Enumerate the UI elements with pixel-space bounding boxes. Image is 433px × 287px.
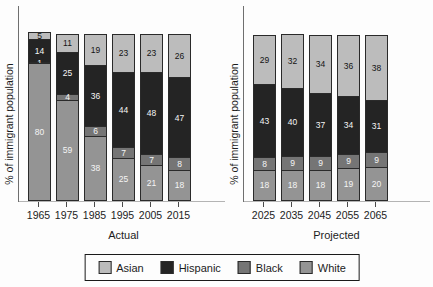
x-tick-label-2005: 2005 (139, 209, 162, 221)
bar-segment-asian: 23 (112, 34, 135, 74)
bars-projected: 29438183240918343791836349193831920 (253, 35, 388, 201)
bar-segment-white: 80 (28, 63, 51, 201)
stacked-bar-chart-figure: % of immigrant population 51418011254591… (0, 0, 433, 287)
bar-segment-hispanic: 31 (365, 100, 388, 153)
legend-label-asian: Asian (116, 262, 144, 274)
x-axis-ticks (18, 202, 225, 207)
plot-column: 29438183240918343791836349193831920 2025… (243, 6, 430, 241)
x-axis-ticks (243, 202, 430, 207)
bar-1985: 1936638 (84, 35, 107, 201)
bar-segment-asian: 26 (168, 34, 191, 79)
axis-tick (347, 202, 349, 207)
bar-segment-black: 8 (253, 157, 276, 171)
bar-segment-asian: 32 (281, 34, 304, 89)
y-axis-label-text: % of immigrant population (3, 63, 15, 184)
segment-value-label: 31 (372, 122, 381, 131)
bar-segment-hispanic: 25 (56, 52, 79, 95)
segment-value-label: 29 (260, 56, 269, 65)
axis-tick (66, 202, 68, 207)
bars-actual: 5141801125459193663823447252348721264781… (28, 33, 191, 201)
segment-value-label: 32 (288, 57, 297, 66)
legend-item-hispanic: Hispanic (161, 261, 221, 274)
segment-value-label: 36 (344, 62, 353, 71)
plot-area-actual: 5141801125459193663823447252348721264781… (18, 6, 225, 202)
bar-segment-white: 59 (56, 100, 79, 201)
segment-value-label: 38 (91, 164, 100, 173)
segment-value-label: 18 (316, 181, 325, 190)
bar-segment-white: 18 (281, 170, 304, 201)
asian-swatch-icon (98, 261, 111, 274)
segment-value-label: 43 (260, 117, 269, 126)
segment-value-label: 48 (147, 109, 156, 118)
x-tick-label-2045: 2045 (308, 209, 331, 221)
segment-value-label: 44 (119, 106, 128, 115)
axis-tick (94, 202, 96, 207)
bar-2005: 2348721 (140, 35, 163, 201)
bar-2035: 3240918 (281, 35, 304, 201)
x-tick-label-2015: 2015 (167, 209, 190, 221)
segment-value-label: 9 (318, 159, 323, 168)
bar-segment-hispanic: 47 (168, 77, 191, 158)
bar-1995: 2344725 (112, 35, 135, 201)
bar-segment-white: 25 (112, 158, 135, 201)
bar-segment-asian: 23 (140, 34, 163, 74)
segment-value-label: 34 (344, 121, 353, 130)
panel-actual: % of immigrant population 51418011254591… (0, 6, 225, 241)
bar-segment-black: 9 (309, 156, 332, 171)
segment-value-label: 23 (147, 49, 156, 58)
black-swatch-icon (238, 261, 251, 274)
axis-tick (291, 202, 293, 207)
panel-caption-actual: Actual (18, 229, 225, 241)
bar-segment-asian: 34 (309, 35, 332, 93)
x-tick-label-2065: 2065 (364, 209, 387, 221)
bar-2065: 3831920 (365, 36, 388, 201)
axis-tick (375, 202, 377, 207)
legend-item-asian: Asian (98, 261, 144, 274)
bar-segment-black: 8 (168, 157, 191, 171)
segment-value-label: 8 (262, 160, 267, 169)
bar-segment-asian: 38 (365, 35, 388, 100)
axis-tick (150, 202, 152, 207)
bar-2025: 2943818 (253, 36, 276, 201)
y-axis-label: % of immigrant population (0, 6, 18, 241)
segment-value-label: 9 (290, 159, 295, 168)
segment-value-label: 18 (175, 181, 184, 190)
bar-segment-white: 19 (337, 168, 360, 201)
x-tick-label-2055: 2055 (336, 209, 359, 221)
segment-value-label: 36 (91, 92, 100, 101)
bar-segment-black: 9 (365, 152, 388, 167)
segment-value-label: 23 (119, 49, 128, 58)
bar-segment-white: 20 (365, 167, 388, 201)
tick-slot (55, 202, 78, 207)
bar-2045: 3437918 (309, 36, 332, 201)
tick-slot (252, 202, 275, 207)
tick-slot (111, 202, 134, 207)
segment-value-label: 25 (119, 175, 128, 184)
segment-value-label: 80 (35, 128, 44, 137)
axis-tick (38, 202, 40, 207)
bar-segment-white: 18 (253, 170, 276, 201)
axis-tick (263, 202, 265, 207)
tick-slot (280, 202, 303, 207)
hispanic-swatch-icon (161, 261, 174, 274)
x-axis-labels: 20252035204520552065 (243, 209, 430, 221)
bar-2055: 3634919 (337, 36, 360, 201)
bar-segment-white: 38 (84, 136, 107, 201)
segment-value-label: 25 (63, 69, 72, 78)
tick-slot (27, 202, 50, 207)
bar-segment-asian: 29 (253, 35, 276, 85)
bar-1975: 1125459 (56, 35, 79, 201)
x-tick-label-1985: 1985 (83, 209, 106, 221)
segment-value-label: 9 (374, 156, 379, 165)
legend-label-white: White (318, 262, 346, 274)
x-axis-labels: 196519751985199520052015 (18, 209, 225, 221)
x-tick-label-2035: 2035 (280, 209, 303, 221)
segment-value-label: 9 (346, 157, 351, 166)
plot-column: 5141801125459193663823447252348721264781… (18, 6, 225, 241)
bar-segment-asian: 19 (84, 34, 107, 67)
bar-segment-black: 9 (281, 156, 304, 171)
bar-segment-hispanic: 34 (337, 96, 360, 154)
segment-value-label: 18 (288, 181, 297, 190)
white-swatch-icon (300, 261, 313, 274)
panel-caption-projected: Projected (243, 229, 430, 241)
